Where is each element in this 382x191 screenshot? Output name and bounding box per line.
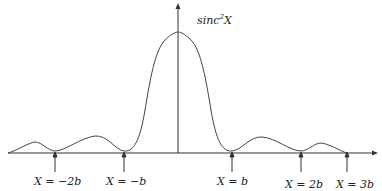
label-b: X = b <box>217 175 248 188</box>
marker-arrows <box>53 152 349 172</box>
title-text: sinc <box>197 14 219 27</box>
curve-title: sinc2X <box>197 13 232 27</box>
y-axis-arrow-icon <box>176 3 181 9</box>
x-axis-arrow-icon <box>372 151 378 156</box>
title-variable: X <box>224 14 232 27</box>
label-2b: X = 2b <box>285 178 323 191</box>
label-3b: X = 3b <box>336 178 374 191</box>
label-minus-2b: X = −2b <box>34 175 81 188</box>
sinc-squared-diagram <box>0 0 382 191</box>
label-minus-b: X = −b <box>106 175 146 188</box>
